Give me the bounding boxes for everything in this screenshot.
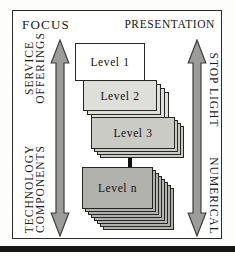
diagram-canvas: FOCUS PRESENTATION SERVICE OFFERINGS TEC… xyxy=(0,0,235,256)
numerical-label: NUMERICAL xyxy=(208,157,219,234)
right-double-arrow-icon xyxy=(187,39,207,237)
level-n-label: Level n xyxy=(83,168,152,208)
level-1-label: Level 1 xyxy=(76,44,144,80)
level-2-card: Level 2 xyxy=(83,80,157,111)
bottom-rule xyxy=(0,246,235,252)
level-3-label: Level 3 xyxy=(92,118,174,148)
focus-label: FOCUS xyxy=(22,17,70,33)
components-line: COMPONENTS xyxy=(35,145,46,234)
presentation-label: PRESENTATION xyxy=(124,18,215,30)
level-n-card: Level n xyxy=(82,167,153,209)
diagram-frame: FOCUS PRESENTATION SERVICE OFFERINGS TEC… xyxy=(12,10,222,239)
left-double-arrow-icon xyxy=(50,39,70,237)
level-2-label: Level 2 xyxy=(84,81,156,110)
technology-components-label: TECHNOLOGY COMPONENTS xyxy=(24,145,46,234)
stop-light-label: STOP LIGHT xyxy=(208,53,219,128)
level-1-card: Level 1 xyxy=(75,43,145,81)
service-offerings-label: SERVICE OFFERINGS xyxy=(24,32,46,104)
offerings-line: OFFERINGS xyxy=(35,32,46,104)
level-3-card: Level 3 xyxy=(91,117,175,149)
